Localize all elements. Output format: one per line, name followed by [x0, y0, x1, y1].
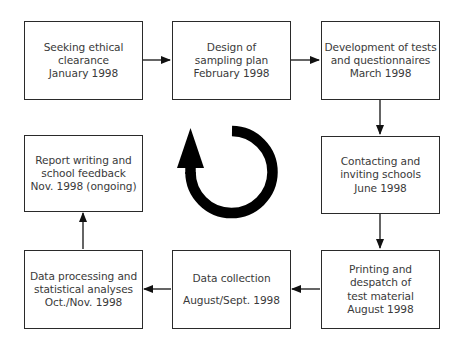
step-text: Design of	[207, 41, 256, 54]
step-text: Development of tests	[324, 41, 436, 54]
step-date: Nov. 1998 (ongoing)	[30, 180, 136, 193]
step-text: inviting schools	[340, 168, 421, 181]
step-text: test material	[347, 290, 414, 303]
step-text: despatch of	[350, 276, 411, 289]
step-text: clearance	[58, 54, 109, 67]
step-date: January 1998	[49, 67, 118, 80]
step-printing-and-despatch: Printing and despatch of test material A…	[321, 250, 440, 329]
step-text: Data collection	[193, 272, 271, 285]
cycle-arrow-icon	[177, 128, 273, 213]
step-text: statistical analyses	[34, 283, 133, 296]
step-date: June 1998	[354, 182, 407, 195]
step-seeking-ethical-clearance: Seeking ethical clearance January 1998	[24, 21, 143, 100]
step-text: Contacting and	[341, 155, 421, 168]
step-design-of-sampling-plan: Design of sampling plan February 1998	[172, 21, 291, 100]
step-text: Report writing and	[35, 154, 131, 167]
step-text: school feedback	[41, 167, 126, 180]
step-date: August/Sept. 1998	[183, 294, 280, 307]
step-report-writing: Report writing and school feedback Nov. …	[24, 135, 143, 212]
step-data-collection: Data collection August/Sept. 1998	[172, 250, 291, 329]
step-text: Seeking ethical	[44, 41, 124, 54]
step-text: Printing and	[349, 263, 412, 276]
step-text: sampling plan	[195, 54, 268, 67]
step-date: March 1998	[350, 67, 412, 80]
step-text: Data processing and	[30, 270, 137, 283]
step-date: August 1998	[347, 303, 413, 316]
step-contacting-schools: Contacting and inviting schools June 199…	[321, 136, 440, 214]
step-text: and questionnaires	[331, 54, 431, 67]
step-date: Oct./Nov. 1998	[45, 296, 122, 309]
step-development-of-tests: Development of tests and questionnaires …	[321, 21, 440, 100]
step-date: February 1998	[194, 67, 270, 80]
step-data-processing: Data processing and statistical analyses…	[24, 250, 143, 329]
